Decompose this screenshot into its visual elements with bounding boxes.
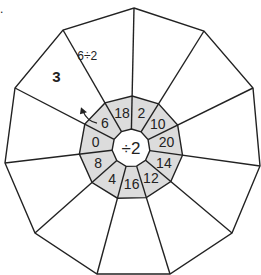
inner-value: 6 bbox=[101, 115, 109, 131]
example-answer: 3 bbox=[52, 68, 60, 85]
inner-value: 20 bbox=[159, 134, 175, 150]
inner-value: 18 bbox=[114, 105, 130, 121]
inner-value: 2 bbox=[137, 105, 145, 121]
inner-value: 4 bbox=[108, 171, 116, 187]
inner-value: 8 bbox=[94, 155, 102, 171]
division-wheel-diagram: ÷22102014121648066÷2318 bbox=[0, 0, 261, 275]
inner-value: 14 bbox=[156, 155, 172, 171]
inner-value: 10 bbox=[150, 116, 166, 132]
inner-value: 16 bbox=[124, 176, 140, 192]
inner-value: 0 bbox=[92, 134, 100, 150]
center-operation: ÷2 bbox=[122, 139, 141, 158]
example-working: 6÷2 bbox=[77, 49, 97, 63]
inner-value: 12 bbox=[143, 170, 159, 186]
